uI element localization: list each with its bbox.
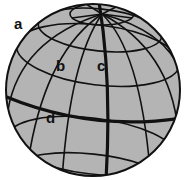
globe-diagram	[0, 0, 185, 180]
label-c: c	[97, 58, 105, 73]
label-b: b	[56, 58, 65, 73]
label-a: a	[14, 16, 22, 31]
label-d: d	[46, 110, 55, 125]
